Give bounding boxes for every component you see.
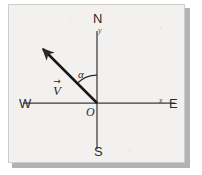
label-angle-alpha: α xyxy=(78,69,84,80)
vector-diagram-figure: N y E x W S O α → V xyxy=(0,0,202,175)
vector-letter: V xyxy=(53,84,61,97)
panel-drop-shadow-right xyxy=(185,8,190,168)
label-origin: O xyxy=(86,106,95,118)
label-vector-v: → V xyxy=(53,79,61,97)
label-north: N xyxy=(93,12,102,25)
label-x-axis: x xyxy=(159,97,163,105)
label-east: E xyxy=(169,97,178,110)
panel-drop-shadow-bottom xyxy=(12,163,190,168)
label-y-axis: y xyxy=(98,27,102,35)
label-south: S xyxy=(94,145,103,158)
diagram-canvas xyxy=(9,5,185,163)
figure-panel: N y E x W S O α → V xyxy=(8,4,185,163)
label-west: W xyxy=(19,97,31,110)
